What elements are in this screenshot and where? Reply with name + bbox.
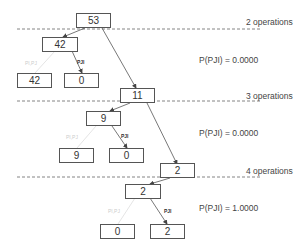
level-label-4-operations: 4 operations	[246, 166, 293, 176]
node-l1-right: 0	[64, 73, 99, 88]
edge-label-faint: PI,PJ	[108, 208, 120, 214]
probability-level-1: P(PJI) = 0.0000	[199, 55, 258, 65]
edge-label-faint: PI,PJ	[66, 134, 78, 140]
node-l3-right: 2	[150, 224, 185, 239]
node-l3-parent: 2	[160, 163, 195, 178]
node-l3: 2	[125, 184, 161, 199]
edge-label-pji: PJI	[121, 133, 129, 139]
node-l2-left: 9	[59, 148, 94, 163]
node-l1-left: 42	[17, 73, 52, 88]
edge-label-pji: PJI	[77, 59, 85, 65]
edge-label-pji: PJI	[164, 208, 172, 214]
probability-level-2: P(PJI) = 0.0000	[199, 128, 258, 138]
level-label-2-operations: 2 operations	[246, 17, 293, 27]
node-l2-parent: 11	[120, 88, 155, 103]
node-l2: 9	[86, 111, 121, 126]
level-label-3-operations: 3 operations	[246, 91, 293, 101]
node-root: 53	[76, 13, 111, 28]
probability-level-3: P(PJI) = 1.0000	[199, 203, 258, 213]
node-l3-left: 0	[100, 224, 135, 239]
node-l1: 42	[42, 37, 78, 52]
edge-label-faint: PI,PJ	[25, 60, 37, 66]
node-l2-right: 0	[109, 148, 144, 163]
